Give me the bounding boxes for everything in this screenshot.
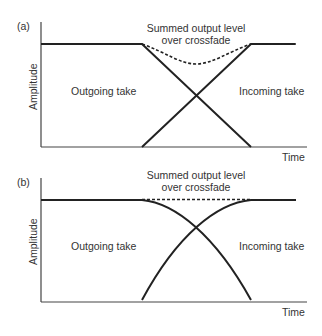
outgoing-label-b: Outgoing take <box>71 240 137 252</box>
summed-label-b-1: Summed output level <box>147 169 246 181</box>
summed-label-a-1: Summed output level <box>147 22 246 34</box>
x-axis-label-b: Time <box>282 306 305 318</box>
summed-label-a-2: over crossfade <box>162 34 231 46</box>
crossfade-figure: (a) Amplitude Time Summed output level o… <box>0 0 322 336</box>
chart-b: (b) Amplitude Time Summed output level o… <box>17 169 307 318</box>
outgoing-label-a: Outgoing take <box>71 85 137 97</box>
y-axis-label-b: Amplitude <box>27 218 39 265</box>
summed-level-a <box>142 44 251 64</box>
summed-label-b-2: over crossfade <box>162 181 231 193</box>
panel-label-a: (a) <box>17 20 30 32</box>
y-axis-label-a: Amplitude <box>27 63 39 110</box>
chart-a: (a) Amplitude Time Summed output level o… <box>17 20 307 163</box>
panel-label-b: (b) <box>17 176 30 188</box>
incoming-label-a: Incoming take <box>239 85 305 97</box>
incoming-label-b: Incoming take <box>239 240 305 252</box>
x-axis-label-a: Time <box>282 151 305 163</box>
